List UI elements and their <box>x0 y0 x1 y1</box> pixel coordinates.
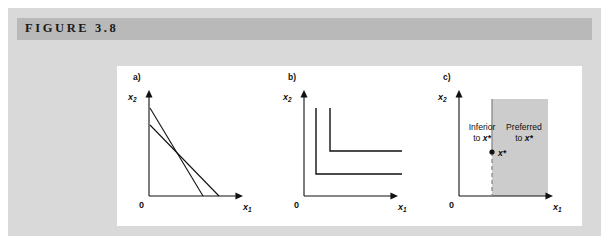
panel-c-origin-label: 0 <box>449 200 454 210</box>
figure-canvas: a) x2 0 x1 <box>117 66 582 226</box>
figure-screenshot: FIGURE 3.8 a) x2 0 x1 <box>0 0 609 243</box>
panel-c: c) x2 0 x1 <box>427 66 582 226</box>
panel-c-label: c) <box>443 72 451 82</box>
panel-a-origin-label: 0 <box>139 200 144 210</box>
panel-b-curve-inner <box>330 108 402 151</box>
panel-a-label: a) <box>133 72 141 82</box>
figure-title: FIGURE 3.8 <box>25 21 118 36</box>
panel-a-x-axis-label: x1 <box>243 202 252 212</box>
panel-c-x-axis-label: x1 <box>553 202 562 212</box>
panel-b-label: b) <box>288 72 296 82</box>
panel-c-y-axis-label: x2 <box>438 92 447 102</box>
panel-b-origin-label: 0 <box>294 200 299 210</box>
panel-a-y-axis-label: x2 <box>128 92 137 102</box>
panel-c-xstar-label: x* <box>498 148 506 158</box>
panel-c-point-xstar <box>489 149 494 154</box>
panel-c-inferior-label: Inferior to x* <box>460 122 504 144</box>
panel-b-x-axis-label: x1 <box>398 202 407 212</box>
panel-c-preferred-label: Preferred to x* <box>499 122 549 144</box>
panel-b-curve-outer <box>316 108 402 174</box>
panel-b-y-axis-label: x2 <box>283 92 292 102</box>
panel-a: a) x2 0 x1 <box>117 66 272 226</box>
panel-b: b) x2 0 x1 <box>272 66 427 226</box>
panel-a-line-outer <box>150 125 219 196</box>
